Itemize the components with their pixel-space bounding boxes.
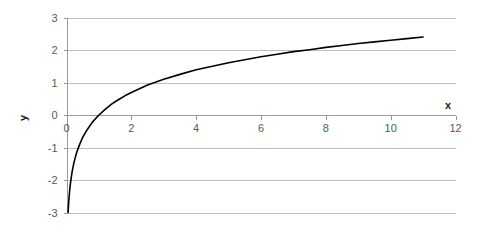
- x-tick-labels-group: 024681012: [63, 122, 461, 134]
- y-axis-title: y: [17, 114, 29, 121]
- x-tick-label-3: 6: [258, 122, 264, 134]
- line-chart: 024681012 -3-2-10123 x y: [0, 0, 485, 235]
- chart-container: 024681012 -3-2-10123 x y: [0, 0, 485, 235]
- x-axis-title: x: [445, 99, 452, 111]
- y-tick-labels-group: -3-2-10123: [48, 12, 58, 219]
- y-tick-label-3: 0: [51, 109, 57, 121]
- x-tick-label-5: 10: [385, 122, 397, 134]
- y-tick-label-4: 1: [51, 77, 57, 89]
- y-tick-label-2: -1: [48, 142, 58, 154]
- y-tick-label-1: -2: [48, 174, 58, 186]
- data-series-ln-x: [68, 37, 423, 213]
- y-tick-label-0: -3: [48, 207, 58, 219]
- x-tick-label-0: 0: [63, 122, 69, 134]
- x-tick-marks-group: [68, 116, 457, 120]
- x-tick-label-6: 12: [449, 122, 461, 134]
- x-tick-label-2: 4: [193, 122, 199, 134]
- y-tick-label-6: 3: [51, 12, 57, 24]
- x-tick-label-1: 2: [128, 122, 134, 134]
- y-tick-label-5: 2: [51, 44, 57, 56]
- x-tick-label-4: 8: [323, 122, 329, 134]
